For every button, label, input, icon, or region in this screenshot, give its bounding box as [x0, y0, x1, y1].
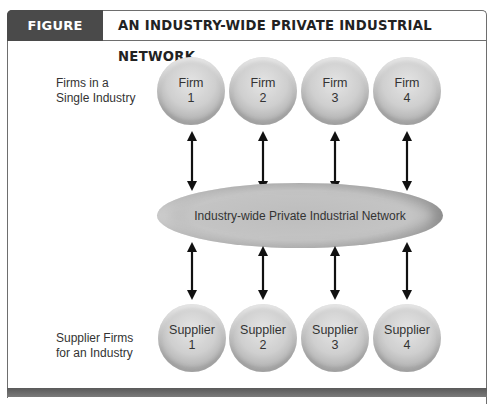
supplier-number: 4 — [404, 338, 411, 353]
firm-number: 4 — [404, 91, 411, 106]
firm-number: 3 — [332, 91, 339, 106]
double-arrow-icon — [329, 131, 341, 191]
supplier-number: 3 — [332, 338, 339, 353]
figure-number: FIGURE 12.17 — [7, 10, 103, 41]
firm-node-3: Firm 3 — [301, 57, 369, 125]
footer-bar — [7, 388, 487, 397]
firm-name: Firm — [395, 76, 420, 91]
supplier-node-2: Supplier 2 — [229, 304, 297, 372]
supplier-name: Supplier — [240, 323, 286, 338]
suppliers-label-line1: Supplier Firms — [56, 331, 133, 346]
supplier-number: 2 — [260, 338, 267, 353]
double-arrow-icon — [186, 131, 198, 191]
supplier-name: Supplier — [312, 323, 358, 338]
firms-label-line1: Firms in a — [56, 76, 135, 91]
firms-row-label: Firms in a Single Industry — [56, 76, 135, 106]
double-arrow-icon — [329, 246, 341, 300]
firm-name: Firm — [179, 76, 204, 91]
firm-node-4: Firm 4 — [373, 57, 441, 125]
double-arrow-icon — [401, 131, 413, 191]
header-divider — [103, 40, 487, 41]
supplier-number: 1 — [189, 338, 196, 353]
double-arrow-icon — [257, 246, 269, 300]
figure-title: AN INDUSTRY-WIDE PRIVATE INDUSTRIAL NETW… — [118, 10, 494, 41]
firm-number: 1 — [188, 91, 195, 106]
supplier-node-3: Supplier 3 — [301, 304, 369, 372]
supplier-name: Supplier — [384, 323, 430, 338]
double-arrow-icon — [401, 242, 413, 300]
suppliers-row-label: Supplier Firms for an Industry — [56, 331, 133, 361]
firms-label-line2: Single Industry — [56, 91, 135, 106]
suppliers-label-line2: for an Industry — [56, 346, 133, 361]
supplier-node-4: Supplier 4 — [373, 304, 441, 372]
firm-node-2: Firm 2 — [229, 57, 297, 125]
network-label: Industry-wide Private Industrial Network — [194, 209, 405, 223]
supplier-node-1: Supplier 1 — [158, 304, 226, 372]
double-arrow-icon — [186, 242, 198, 300]
firm-node-1: Firm 1 — [157, 57, 225, 125]
firm-name: Firm — [251, 76, 276, 91]
network-ellipse: Industry-wide Private Industrial Network — [157, 183, 443, 248]
double-arrow-icon — [257, 131, 269, 191]
firm-number: 2 — [260, 91, 267, 106]
supplier-name: Supplier — [169, 323, 215, 338]
firm-name: Firm — [323, 76, 348, 91]
